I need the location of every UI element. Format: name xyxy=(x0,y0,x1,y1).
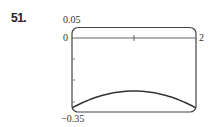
data-curve xyxy=(72,91,196,108)
plot-area xyxy=(0,0,211,127)
